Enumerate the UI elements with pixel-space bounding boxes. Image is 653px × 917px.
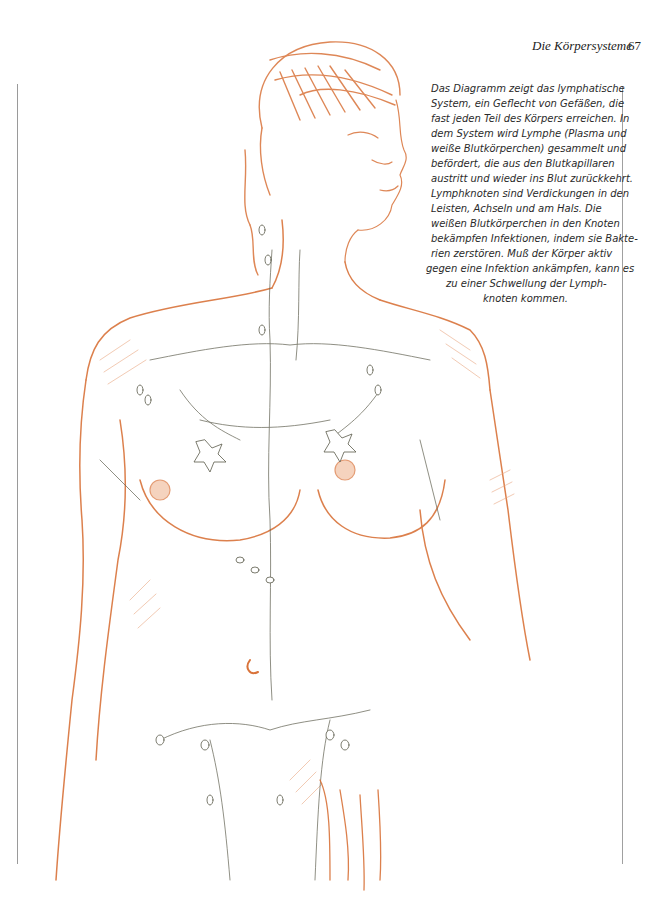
caption-line: austritt und wieder ins Blut zurückkehrt… [431,171,633,186]
caption-line: befördert, die aus den Blutkapillaren [431,156,615,171]
hand-sketch [320,780,381,890]
caption-line: weißen Blutkörperchen in den Knoten [431,216,620,231]
breast-lymph-plexus [194,430,356,472]
caption-line: rien zerstören. Muß der Körper aktiv [431,246,612,261]
running-head-title: Die Körpersysteme [532,38,632,54]
caption-line: zu einer Schwellung der Lymph- [446,276,607,291]
page-number: 67 [628,38,641,54]
caption-line: knoten kommen. [483,291,568,306]
caption-line: weiße Blutkörperchen) gesammelt und [431,141,626,156]
caption-line: gegen eine Infektion ankämpfen, kann es [426,261,634,276]
caption-line: Das Diagramm zeigt das lymphatische [431,81,625,96]
shading-hatching [100,330,514,804]
caption-line: Leisten, Achseln und am Hals. Die [431,201,602,216]
caption-line: dem System wird Lymphe (Plasma und [431,126,627,141]
caption-line: bekämpfen Infektionen, indem sie Bakte- [431,231,638,246]
right-margin-rule [622,86,623,864]
lymph-nodes [137,225,381,805]
torso-outline [56,220,530,880]
left-margin-rule [17,84,18,864]
face-sketch [345,100,406,262]
caption-line: fast jeden Teil des Körpers erreichen. I… [431,111,629,126]
hair-sketch [245,42,400,275]
caption-line: System, ein Geflecht von Gefäßen, die [431,96,624,111]
caption-line: Lymphknoten sind Verdickungen in den [431,186,629,201]
anatomy-details [150,460,355,673]
lymph-vessel-network [100,250,440,880]
